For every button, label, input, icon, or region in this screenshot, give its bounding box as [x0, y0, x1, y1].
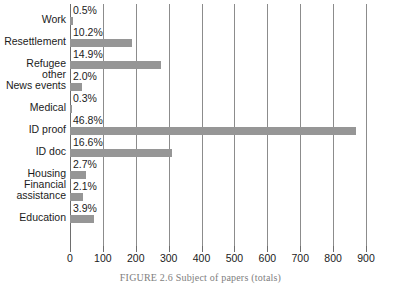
category-label: Education — [0, 212, 66, 223]
bar-row: 16.6% — [70, 136, 366, 158]
x-tick-label-300: 300 — [160, 252, 178, 264]
bar-data-label: 10.2% — [73, 27, 103, 38]
figure-caption: FIGURE 2.6 Subject of papers (totals) — [0, 272, 401, 284]
bar-row: 10.2% — [70, 26, 366, 48]
category-label: Resettlement — [0, 36, 66, 47]
bar — [70, 171, 86, 179]
category-label: Refugee other — [0, 58, 66, 80]
figure: WorkResettlementRefugee otherNews events… — [0, 0, 401, 286]
bar-data-label: 0.5% — [73, 5, 97, 16]
bar-row: 0.3% — [70, 92, 366, 114]
category-label: News events — [0, 80, 66, 91]
bar-row: 0.5% — [70, 4, 366, 26]
bar-row: 46.8% — [70, 114, 366, 136]
category-label: Work — [0, 14, 66, 25]
category-label: ID doc — [0, 146, 66, 157]
category-axis-labels: WorkResettlementRefugee otherNews events… — [0, 4, 66, 246]
bar-data-label: 46.8% — [73, 115, 103, 126]
x-tick-label-600: 600 — [259, 252, 277, 264]
bar-data-label: 16.6% — [73, 137, 103, 148]
bar — [70, 105, 72, 113]
bar — [70, 17, 73, 25]
x-tick-label-0: 0 — [67, 252, 73, 264]
bar — [70, 83, 82, 91]
bar-data-label: 3.9% — [73, 203, 97, 214]
x-tick-label-400: 400 — [193, 252, 211, 264]
category-label: Medical — [0, 102, 66, 113]
bar-data-label: 2.7% — [73, 159, 97, 170]
category-label: Financial assistance — [0, 179, 66, 201]
bar-data-label: 2.0% — [73, 71, 97, 82]
bar-chart: WorkResettlementRefugee otherNews events… — [0, 0, 401, 252]
bar-row: 2.0% — [70, 70, 366, 92]
x-axis-tick-labels: 0100200300400500600700800900 — [0, 252, 401, 268]
x-tick-label-200: 200 — [127, 252, 145, 264]
bar — [70, 39, 132, 47]
gridline-900 — [366, 4, 367, 246]
x-tick-label-800: 800 — [324, 252, 342, 264]
bar — [70, 215, 94, 223]
bar — [70, 127, 356, 135]
x-tick-label-700: 700 — [291, 252, 309, 264]
bar-data-label: 2.1% — [73, 181, 97, 192]
x-tick-label-100: 100 — [94, 252, 112, 264]
bar-data-label: 0.3% — [73, 93, 97, 104]
bar-row: 2.1% — [70, 180, 366, 202]
x-tick-label-500: 500 — [226, 252, 244, 264]
bar — [70, 149, 172, 157]
bar-row: 14.9% — [70, 48, 366, 70]
bar-row: 3.9% — [70, 202, 366, 224]
x-tick-label-900: 900 — [357, 252, 375, 264]
bar — [70, 193, 83, 201]
bar-data-label: 14.9% — [73, 49, 103, 60]
bar-rows: 0.5%10.2%14.9%2.0%0.3%46.8%16.6%2.7%2.1%… — [70, 4, 366, 246]
plot-area: 0.5%10.2%14.9%2.0%0.3%46.8%16.6%2.7%2.1%… — [70, 4, 366, 246]
bar-row: 2.7% — [70, 158, 366, 180]
bar — [70, 61, 161, 69]
category-label: ID proof — [0, 124, 66, 135]
